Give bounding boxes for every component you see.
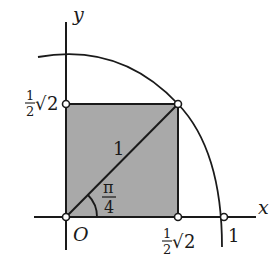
x-label-half-num: 1	[163, 226, 171, 241]
x-one-point	[221, 214, 228, 221]
corner-point	[175, 101, 182, 108]
angle-denominator: 4	[104, 198, 114, 217]
x-axis-label: x	[258, 196, 269, 218]
unit-circle-diagram: y x O 1 π 4 1 2 √ 2 1 2 √ 2 1	[0, 0, 278, 267]
origin-label: O	[73, 223, 89, 245]
hypotenuse-label: 1	[113, 138, 124, 159]
angle-numerator: π	[103, 178, 114, 197]
origin-point	[63, 214, 70, 221]
x-half-sqrt2-point	[175, 214, 182, 221]
y-label-half-den: 2	[26, 104, 34, 119]
y-label-half-num: 1	[26, 88, 34, 103]
x-label-half-den: 2	[163, 242, 171, 257]
y-half-sqrt2-point	[63, 101, 70, 108]
x-label-sqrt: √	[172, 231, 184, 252]
y-label-sqrt: √	[35, 93, 47, 114]
x-label-sqrt-arg: 2	[184, 231, 195, 252]
diagram-canvas: y x O 1 π 4 1 2 √ 2 1 2 √ 2 1	[0, 0, 278, 267]
y-label-sqrt-arg: 2	[47, 93, 58, 114]
y-axis-label: y	[72, 3, 84, 25]
x-intercept-label: 1	[228, 225, 239, 246]
